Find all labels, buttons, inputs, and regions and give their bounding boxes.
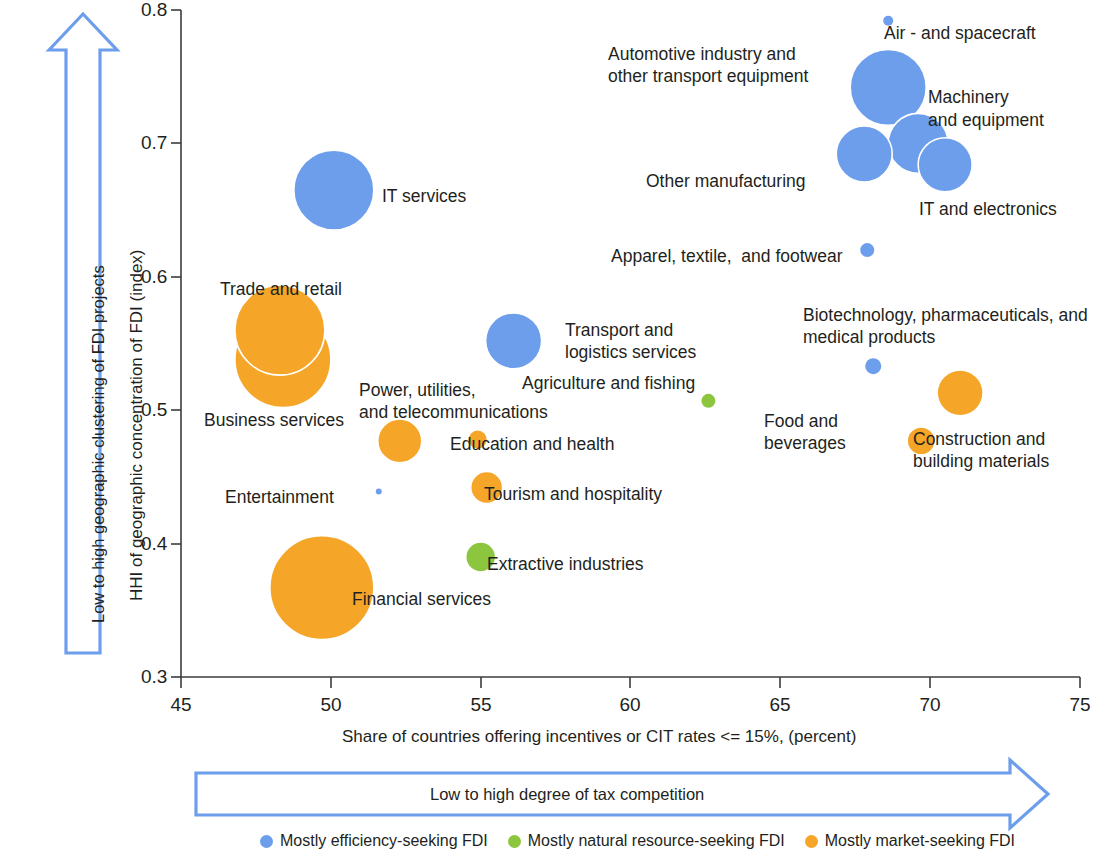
label-power-line2: and telecommunications: [359, 402, 548, 423]
label-financial-services: Financial services: [352, 589, 491, 610]
x-axis-title: Share of countries offering incentives o…: [342, 727, 856, 747]
x-tick-55: 55: [461, 694, 501, 716]
x-axis-ticks: [181, 677, 1080, 688]
label-construction-line1: Construction and: [913, 429, 1045, 450]
bubble-agriculture-and-fishing[interactable]: [701, 394, 715, 408]
label-transport-line2: logistics services: [565, 342, 696, 363]
label-air-and-spacecraft: Air - and spacecraft: [884, 23, 1036, 44]
legend-dot-efficiency-icon: [260, 835, 273, 848]
bubble-entertainment[interactable]: [376, 489, 382, 495]
label-food-line2: beverages: [764, 433, 846, 454]
label-food-line1: Food and: [764, 411, 838, 432]
label-biotech-line1: Biotechnology, pharmaceuticals, and: [803, 305, 1088, 326]
label-machinery-line1: Machinery: [928, 87, 1009, 108]
y-tick-0.3: 0.3: [141, 666, 167, 688]
legend: Mostly efficiency-seeking FDI Mostly nat…: [180, 832, 1107, 850]
y-axis-title: HHI of geographic concentration of FDI (…: [127, 249, 147, 601]
bubble-construction-and[interactable]: [937, 370, 983, 416]
label-entertainment: Entertainment: [225, 487, 334, 508]
x-tick-45: 45: [161, 694, 201, 716]
label-apparel-textile-footwear: Apparel, textile, and footwear: [611, 246, 843, 267]
bubble-transport-and[interactable]: [486, 313, 542, 369]
x-tick-50: 50: [311, 694, 351, 716]
label-tourism-and-hospitality: Tourism and hospitality: [484, 484, 662, 505]
x-tick-75: 75: [1060, 694, 1100, 716]
x-tick-70: 70: [910, 694, 950, 716]
legend-dot-natural-resource-icon: [508, 835, 521, 848]
label-transport-line1: Transport and: [565, 320, 673, 341]
bubble-apparel-textile-and-footwear[interactable]: [860, 243, 874, 257]
label-other-manufacturing: Other manufacturing: [646, 171, 806, 192]
label-agriculture-and-fishing: Agriculture and fishing: [522, 373, 695, 394]
bubble-chart-figure: 0.8 0.7 0.6 0.5 0.4 0.3 45 50 55 60 65 7…: [0, 0, 1107, 859]
legend-label-efficiency: Mostly efficiency-seeking FDI: [280, 832, 488, 850]
legend-dot-market-icon: [805, 835, 818, 848]
bubble-biotechnology-pharmaceuticals-and[interactable]: [865, 358, 881, 374]
x-tick-60: 60: [610, 694, 650, 716]
label-education-and-health: Education and health: [450, 434, 614, 455]
bubble-financial-services[interactable]: [270, 536, 374, 640]
legend-label-natural-resource: Mostly natural resource-seeking FDI: [528, 832, 785, 850]
legend-item-natural-resource[interactable]: Mostly natural resource-seeking FDI: [508, 832, 785, 850]
legend-item-market[interactable]: Mostly market-seeking FDI: [805, 832, 1015, 850]
y-arrow-caption: Low to high geographic clustering of FDI…: [89, 265, 108, 623]
label-automotive-line1: Automotive industry and: [608, 44, 796, 65]
legend-item-efficiency[interactable]: Mostly efficiency-seeking FDI: [260, 832, 488, 850]
label-it-services: IT services: [382, 186, 466, 207]
label-automotive-line2: other transport equipment: [608, 66, 808, 87]
label-machinery-line2: and equipment: [928, 110, 1044, 131]
y-axis-ticks: [171, 10, 181, 677]
label-construction-line2: building materials: [913, 451, 1049, 472]
bubble-other-manufacturing[interactable]: [836, 126, 892, 182]
label-it-and-electronics: IT and electronics: [919, 199, 1057, 220]
x-tick-65: 65: [760, 694, 800, 716]
label-trade-and-retail: Trade and retail: [220, 279, 342, 300]
label-power-line1: Power, utilities,: [359, 380, 476, 401]
y-tick-0.7: 0.7: [141, 132, 167, 154]
label-biotech-line2: medical products: [803, 327, 935, 348]
y-tick-0.8: 0.8: [141, 0, 167, 21]
x-arrow-caption: Low to high degree of tax competition: [430, 785, 704, 804]
label-business-services: Business services: [204, 410, 344, 431]
legend-label-market: Mostly market-seeking FDI: [825, 832, 1015, 850]
bubble-it-and-electronics[interactable]: [918, 138, 972, 192]
label-extractive-industries: Extractive industries: [487, 554, 644, 575]
bubble-power-utilities[interactable]: [378, 419, 422, 463]
bubble-it-services[interactable]: [294, 150, 374, 230]
